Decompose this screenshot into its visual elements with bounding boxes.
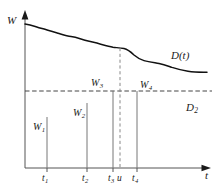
bar-label-w4: W4 [140,80,152,92]
bar-label-w2: W2 [73,108,85,120]
bar-label-w1-sub: 1 [41,126,45,133]
x-tick-label-t3: t3 [108,174,114,184]
x-tick-label-t3-sub: 3 [111,177,115,184]
curve-label-base: D [171,49,179,61]
bar-label-w3-sub: 3 [99,82,103,89]
x-tick-label-u: u [117,174,122,184]
x-tick-label-t4-sub: 4 [135,177,139,184]
x-axis-label: t [205,170,208,181]
x-axis-ticks [47,168,137,172]
bar-label-w4-sub: 4 [148,84,152,91]
curve-label-dt: D(t) [171,50,189,61]
x-tick-label-t4: t4 [132,174,138,184]
threshold-label-d2: D2 [186,102,198,115]
y-axis-label: W [7,15,16,26]
threshold-label-base: D [186,101,194,113]
curve-label-arg: (t) [179,49,189,61]
x-tick-label-t1-sub: 1 [45,177,49,184]
x-axis [25,165,211,172]
degradation-curve-figure: W t D(t) D2 W1 W2 W3 W4 t1 t2 t3 u t4 [0,0,221,190]
x-tick-label-t2: t2 [82,174,88,184]
threshold-label-sub: 2 [194,106,198,115]
figure-canvas [0,0,221,190]
x-tick-label-t2-sub: 2 [85,177,89,184]
bar-label-w1: W1 [33,122,45,134]
x-tick-label-t1: t1 [42,174,48,184]
bar-label-w3: W3 [91,78,103,90]
y-axis [22,10,29,168]
bar-label-w2-sub: 2 [81,112,85,119]
